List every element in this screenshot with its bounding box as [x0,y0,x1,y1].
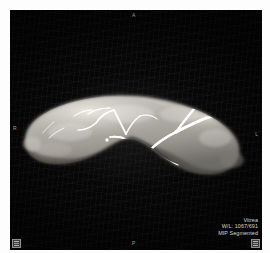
mip-organ-rendering [10,10,262,250]
orientation-marker-anterior: A [132,13,135,18]
orientation-marker-posterior: P [132,241,135,246]
orientation-marker-left: L [255,132,258,137]
viewport-tool-icon-bottom-right[interactable] [251,239,260,248]
orientation-marker-right: R [13,126,17,131]
overlay-annotation-block: Vitrea W/L: 1067/691 MIP Segmented [218,217,258,236]
overlay-window-level: W/L: 1067/691 [218,223,258,229]
viewport-tool-icon-bottom-left[interactable] [12,239,21,248]
medical-image-viewport[interactable]: A P R L Vitrea W/L: 1067/691 MIP Segment… [10,10,262,250]
tool-glyph-icon [14,241,19,246]
screenshot-root: A P R L Vitrea W/L: 1067/691 MIP Segment… [0,0,270,253]
overlay-render-mode: MIP Segmented [218,230,258,236]
tool-glyph-icon [253,241,258,246]
